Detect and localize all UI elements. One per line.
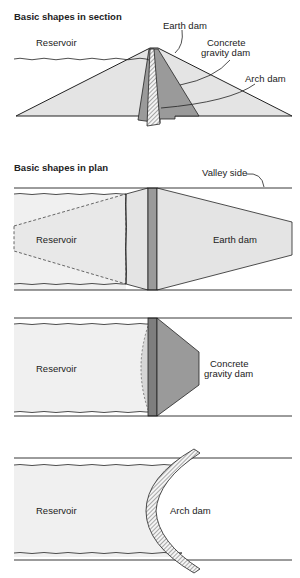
section-reservoir-label: Reservoir bbox=[36, 37, 77, 48]
section-concrete-label-2: gravity dam bbox=[201, 47, 250, 58]
plan-concrete-reservoir-label: Reservoir bbox=[36, 363, 77, 374]
section-earth-dam-label: Earth dam bbox=[163, 20, 207, 31]
section-title: Basic shapes in section bbox=[14, 11, 122, 22]
plan-earth-reservoir-label: Reservoir bbox=[36, 234, 77, 245]
plan-earth-dam-label: Earth dam bbox=[213, 234, 257, 245]
dam-diagram: Basic shapes in section Reservoir Earth … bbox=[0, 0, 300, 578]
plan-arch-dam-label: Arch dam bbox=[170, 505, 211, 516]
valley-side-label: Valley side bbox=[202, 167, 247, 178]
plan-arch-reservoir-label: Reservoir bbox=[36, 505, 77, 516]
valley-side-leader bbox=[246, 174, 264, 187]
plan-title: Basic shapes in plan bbox=[14, 162, 108, 173]
section-arch-dam-label: Arch dam bbox=[245, 73, 286, 84]
earth-dam-leader bbox=[175, 30, 182, 53]
plan-concrete-label-2: gravity dam bbox=[204, 368, 253, 379]
